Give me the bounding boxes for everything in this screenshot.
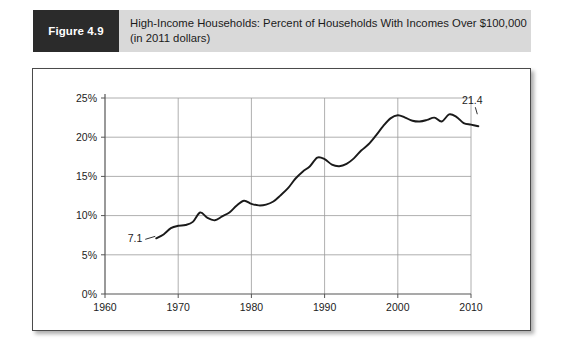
y-tick-label: 20% (76, 131, 97, 143)
y-tick-label: 25% (76, 92, 97, 104)
x-tick-label: 1990 (313, 301, 337, 313)
figure-title-line-2: (in 2011 dollars) (130, 31, 527, 46)
data-point-label: 7.1 (128, 232, 143, 244)
y-tick-label: 10% (76, 209, 97, 221)
y-tick-label: 5% (82, 249, 97, 261)
chart-frame: 0%5%10%15%20%25% 19601970198019902000201… (32, 68, 531, 331)
y-axis-ticks: 0%5%10%15%20%25% (76, 92, 105, 300)
figure-number-badge: Figure 4.9 (33, 10, 119, 52)
data-point-label: 21.4 (462, 94, 483, 106)
x-tick-label: 2000 (386, 301, 410, 313)
x-tick-label: 1980 (240, 301, 264, 313)
y-tick-label: 0% (82, 288, 97, 300)
x-tick-label: 2010 (459, 301, 483, 313)
chart-gridlines (105, 98, 471, 294)
x-tick-label: 1960 (93, 301, 117, 313)
x-axis-ticks: 196019701980199020002010 (93, 294, 483, 313)
figure-header: Figure 4.9 High-Income Households: Perce… (33, 10, 531, 52)
x-tick-label: 1970 (167, 301, 191, 313)
y-tick-label: 15% (76, 170, 97, 182)
figure-title: High-Income Households: Percent of House… (119, 10, 533, 52)
line-chart: 0%5%10%15%20%25% 19601970198019902000201… (33, 69, 530, 330)
figure-title-line-1: High-Income Households: Percent of House… (130, 16, 527, 31)
